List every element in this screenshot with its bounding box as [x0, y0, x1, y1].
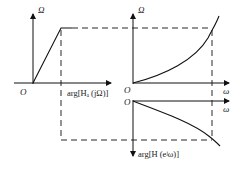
- left-phase-curve: [33, 28, 72, 83]
- left-origin-label: O: [20, 87, 27, 97]
- mid-omega-label: ω: [223, 86, 229, 96]
- bilinear-phase-mapping-diagram: Ω O arg[Hₐ (jΩ)] Ω O ω O ω arg[H (eʲω)]: [0, 0, 240, 170]
- arg-ha-label: arg[Hₐ (jΩ)]: [67, 88, 108, 98]
- projection-lines: [61, 28, 212, 140]
- left-omega-cap-label: Ω: [38, 5, 45, 15]
- mid-origin-label: O: [124, 85, 131, 95]
- bottom-omega-label: ω: [223, 104, 229, 114]
- bottom-origin-label: O: [124, 97, 131, 107]
- digital-phase-curve: [133, 101, 220, 146]
- frequency-warping-curve: [133, 16, 219, 83]
- mid-omega-cap-label: Ω: [138, 5, 145, 15]
- diagram-svg: Ω O arg[Hₐ (jΩ)] Ω O ω O ω arg[H (eʲω)]: [0, 0, 240, 170]
- left-plot: [14, 14, 111, 84]
- middle-plot: [133, 14, 229, 84]
- bottom-plot: [133, 100, 229, 156]
- arg-h-label: arg[H (eʲω)]: [138, 149, 179, 159]
